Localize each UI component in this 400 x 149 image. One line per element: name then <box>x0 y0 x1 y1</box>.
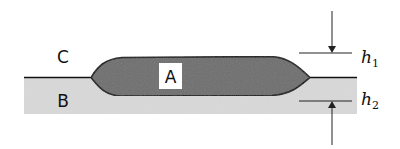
label-c: C <box>57 47 69 67</box>
h1-arrow-head-icon <box>328 46 336 53</box>
label-a: A <box>165 67 177 87</box>
label-b: B <box>57 91 69 111</box>
h1-label: h1 <box>361 47 379 70</box>
lens-diagram: A C B h1 h2 <box>0 0 400 149</box>
lens-region-a <box>91 57 310 97</box>
h2-label: h2 <box>361 89 379 112</box>
